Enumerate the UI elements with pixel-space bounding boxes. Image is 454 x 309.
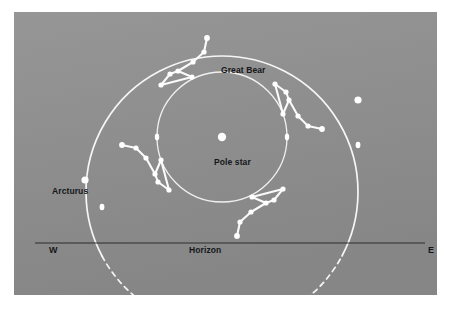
label-west-compass: W bbox=[49, 246, 58, 255]
label-arcturus: Arcturus bbox=[52, 187, 88, 196]
east-arc-star-marker bbox=[354, 96, 361, 103]
pole-star-marker bbox=[218, 133, 226, 141]
label-horizon: Horizon bbox=[189, 246, 221, 255]
sky-diagram-panel: Great Bear Pole star Arcturus Horizon W … bbox=[14, 12, 437, 295]
label-pole-star: Pole star bbox=[214, 158, 251, 167]
orbit-marker-east bbox=[285, 134, 289, 141]
orbit-marker-west bbox=[155, 134, 159, 141]
label-great-bear: Great Bear bbox=[221, 66, 265, 75]
panel-background bbox=[14, 12, 437, 295]
arcturus-arc-marker-east bbox=[356, 142, 361, 148]
arcturus-star-marker bbox=[81, 176, 88, 183]
label-east-compass: E bbox=[428, 246, 434, 255]
sky-diagram-svg bbox=[14, 12, 437, 295]
figure-root: Great Bear Pole star Arcturus Horizon W … bbox=[0, 0, 454, 309]
arcturus-arc-marker-west bbox=[100, 204, 105, 210]
